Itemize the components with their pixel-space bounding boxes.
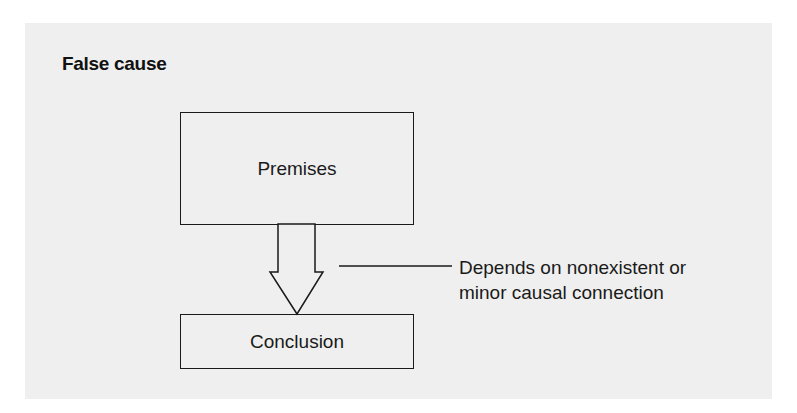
annotation-line-1: Depends on nonexistent or — [459, 255, 686, 280]
conclusion-label: Conclusion — [250, 331, 344, 353]
hollow-down-arrow-icon — [270, 224, 323, 314]
conclusion-box: Conclusion — [180, 314, 414, 369]
annotation-text: Depends on nonexistent or minor causal c… — [459, 255, 686, 305]
annotation-line-2: minor causal connection — [459, 280, 686, 305]
